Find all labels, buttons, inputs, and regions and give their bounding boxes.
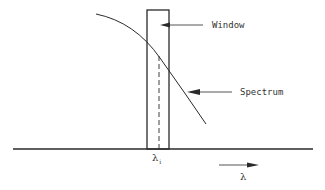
diagram-canvas: Window Spectrum λi λ [0, 0, 325, 190]
window-pointer-arrow-icon [160, 23, 203, 28]
spectrum-pointer-arrow-icon [187, 89, 232, 95]
spectral-window-rect [147, 10, 169, 149]
window-label: Window [212, 21, 245, 30]
spectrum-label: Spectrum [240, 88, 283, 97]
lambda-i-label: λi [152, 153, 160, 163]
wavelength-axis-label: λ [240, 172, 246, 182]
lambda-subscript: i [159, 158, 161, 165]
spectrum-curve [96, 14, 206, 124]
lambda-symbol: λ [152, 152, 158, 163]
wavelength-direction-arrow-icon [219, 163, 259, 168]
